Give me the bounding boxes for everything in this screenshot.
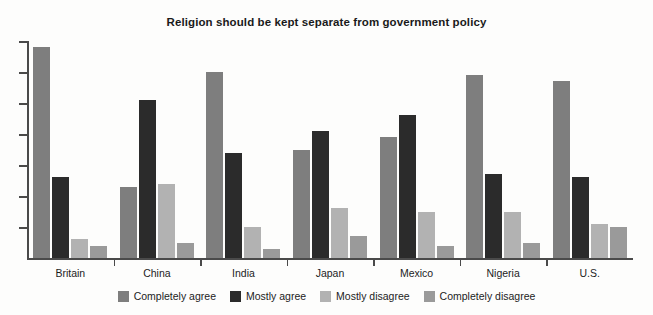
chart-title: Religion should be kept separate from go… (0, 16, 653, 28)
bar-group (466, 41, 540, 258)
bar-group (33, 41, 107, 258)
category-label: Britain (27, 267, 114, 279)
y-axis-tick (19, 72, 27, 74)
category-label: Japan (287, 267, 374, 279)
bar (380, 137, 397, 258)
bar (312, 131, 329, 258)
bar (33, 47, 50, 258)
x-axis-line (27, 258, 633, 260)
bar (120, 187, 137, 258)
legend-label: Mostly disagree (336, 290, 410, 302)
bar (263, 249, 280, 258)
chart-figure: Religion should be kept separate from go… (0, 0, 653, 315)
legend-swatch-icon (424, 291, 435, 302)
bar (293, 150, 310, 259)
category-label: China (114, 267, 201, 279)
legend-swatch-icon (118, 291, 129, 302)
legend-swatch-icon (230, 291, 241, 302)
bar (331, 208, 348, 258)
y-axis-tick (19, 41, 27, 43)
bar (466, 75, 483, 258)
y-axis-tick (19, 165, 27, 167)
x-axis-tick (114, 259, 116, 266)
bar (71, 239, 88, 258)
bar-group (553, 41, 627, 258)
bar (418, 212, 435, 259)
bar (350, 236, 367, 258)
bar (504, 212, 521, 259)
bar-group (293, 41, 367, 258)
bar (225, 153, 242, 258)
legend-label: Mostly agree (246, 290, 306, 302)
x-axis-tick (460, 259, 462, 266)
category-label: Nigeria (460, 267, 547, 279)
bar (485, 174, 502, 258)
bar (572, 177, 589, 258)
legend-label: Completely agree (134, 290, 216, 302)
bar (90, 246, 107, 258)
bar-group (380, 41, 454, 258)
y-axis-tick (19, 134, 27, 136)
bar (399, 115, 416, 258)
bar (244, 227, 261, 258)
category-label: India (200, 267, 287, 279)
y-axis-tick (19, 196, 27, 198)
bar (553, 81, 570, 258)
category-label: Mexico (373, 267, 460, 279)
plot-area (27, 41, 633, 258)
x-axis-tick (200, 259, 202, 266)
chart-legend: Completely agreeMostly agreeMostly disag… (0, 290, 653, 302)
bar (52, 177, 69, 258)
bar (177, 243, 194, 259)
bar (206, 72, 223, 258)
legend-item: Completely agree (118, 290, 216, 302)
bar (523, 243, 540, 259)
legend-item: Mostly agree (230, 290, 306, 302)
bar (591, 224, 608, 258)
x-axis-tick (287, 259, 289, 266)
bar (158, 184, 175, 258)
bar (610, 227, 627, 258)
legend-label: Completely disagree (440, 290, 536, 302)
legend-item: Completely disagree (424, 290, 536, 302)
y-axis-tick (19, 227, 27, 229)
legend-swatch-icon (320, 291, 331, 302)
y-axis-tick (19, 103, 27, 105)
bar (139, 100, 156, 258)
x-axis-tick (373, 259, 375, 266)
bar-group (120, 41, 194, 258)
bar (437, 246, 454, 258)
bar-group (206, 41, 280, 258)
legend-item: Mostly disagree (320, 290, 410, 302)
x-axis-tick (546, 259, 548, 266)
category-label: U.S. (546, 267, 633, 279)
